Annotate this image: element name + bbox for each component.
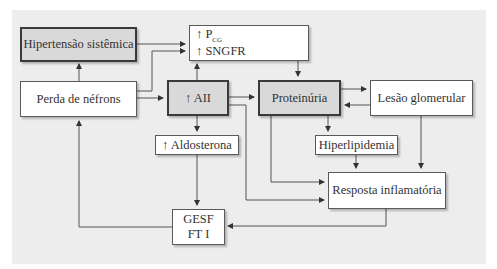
node-gesf-fti: GESF FT I [172,209,225,245]
node-label: ↑ AII [185,91,211,106]
node-hiperlipidemia: Hiperlipidemia [315,135,398,155]
node-label: Hipertensão sistêmica [23,37,133,52]
node-resposta-inflamatoria: Resposta inflamatória [328,172,446,209]
node-label-gesf: GESF [183,212,214,227]
node-label: Perda de néfrons [37,92,121,107]
edge-aii-resposta [229,105,324,200]
node-pcg-sngfr: ↑ PCG ↑ SNGFR [189,25,309,61]
node-perda-nefrons: Perda de néfrons [20,81,137,117]
node-aldosterona: ↑ Aldosterona [155,135,239,155]
node-line-sngfr: ↑ SNGFR [196,44,246,59]
node-aii: ↑ AII [167,80,229,116]
pcg-subscript: CG [212,36,222,44]
node-label: Hiperlipidemia [319,138,395,153]
node-lesao-glomerular: Lesão glomerular [370,80,473,116]
node-line-pcg: ↑ PCG [196,27,222,44]
node-proteinuria: Proteinúria [258,80,341,116]
node-label: ↑ Aldosterona [162,138,232,153]
node-label-fti: FT I [188,227,210,242]
node-hipertensao-sistemica: Hipertensão sistêmica [20,27,137,62]
edge-resposta-gesf [228,209,386,226]
node-label: Resposta inflamatória [332,183,441,198]
node-label: Lesão glomerular [378,91,466,106]
up-arrow-icon: ↑ [196,27,202,41]
node-label: Proteinúria [272,91,328,106]
